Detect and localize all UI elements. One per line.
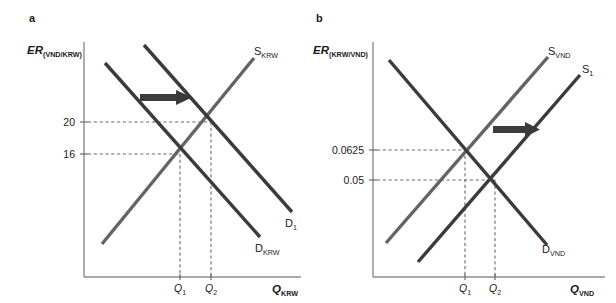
panel-b: b ER(KRW/VND) QVND 0.0625 <box>308 0 616 303</box>
panel-b-supply-shifted-curve <box>418 75 580 262</box>
panel-b-x-axis-label: QVND <box>570 283 594 298</box>
panel-b-supply-shift-arrow <box>493 122 540 137</box>
panel-b-demand-label-sub: VND <box>550 249 565 258</box>
panel-b-letter: b <box>316 12 323 24</box>
panel-a-demand-initial-label: DKRW <box>255 242 280 257</box>
panel-a-xtick-label-q1: Q1 <box>174 282 186 296</box>
panel-a-demand-initial-label-sub: KRW <box>263 248 280 257</box>
panel-b-x-axis-label-main: Q <box>570 283 579 295</box>
panel-b-y-axis-label-main: ER <box>313 44 330 56</box>
panel-a-y-axis-label-main: ER <box>27 44 44 56</box>
panel-b-xtick-label-q2-sub: 2 <box>497 289 501 296</box>
panel-a-supply-label: SKRW <box>254 45 278 60</box>
panel-a-x-axis-label-main: Q <box>272 283 281 295</box>
panel-b-x-axis-label-sub: VND <box>579 289 594 298</box>
panel-a-xtick-label-q1-sub: 1 <box>182 289 186 296</box>
panel-b-supply-shifted-label-main: S <box>582 63 589 75</box>
panel-b-xtick-label-q2: Q2 <box>489 282 501 296</box>
panel-a-xtick-label-q1-main: Q <box>174 282 182 294</box>
panel-a-x-axis-label-sub: KRW <box>281 289 298 298</box>
panel-a-supply-label-sub: KRW <box>261 51 278 60</box>
panel-a-xtick-label-q2-sub: 2 <box>213 289 217 296</box>
panel-b-demand-label-main: D <box>542 243 550 255</box>
panel-b-xtick-label-q1-sub: 1 <box>467 289 471 296</box>
panel-b-xtick-label-q1-main: Q <box>459 282 467 294</box>
panel-a-demand-shifted-curve <box>144 45 292 212</box>
panel-a: a ER(VND/KRW) QKRW 20 <box>0 0 308 303</box>
panel-b-xtick-label-q2-main: Q <box>489 282 497 294</box>
panel-a-x-axis-label: QKRW <box>272 283 298 298</box>
panel-a-ytick-label-20: 20 <box>63 116 75 128</box>
panel-b-supply-initial-label: SVND <box>548 45 571 60</box>
panel-b-supply-shifted-label: S1 <box>582 63 593 78</box>
panel-a-demand-shifted-label-sub: 1 <box>293 223 297 232</box>
panel-b-ytick-label-0-0625: 0.0625 <box>332 144 364 156</box>
panel-b-demand-label: DVND <box>542 243 565 258</box>
panel-b-y-axis-label: ER(KRW/VND) <box>313 44 369 59</box>
panel-b-supply-shifted-label-sub: 1 <box>589 69 593 78</box>
panel-a-xtick-label-q2-main: Q <box>205 282 213 294</box>
panel-b-xtick-label-q1: Q1 <box>459 282 471 296</box>
panel-b-supply-initial-label-sub: VND <box>555 51 570 60</box>
panel-a-demand-initial-label-main: D <box>255 242 263 254</box>
panel-a-y-axis-label: ER(VND/KRW) <box>27 44 83 59</box>
exchange-rate-supply-demand-figure: a ER(VND/KRW) QKRW 20 <box>0 0 616 303</box>
panel-a-chart: a ER(VND/KRW) QKRW 20 <box>0 0 308 303</box>
panel-b-y-axis-label-sub: (KRW/VND) <box>329 50 369 59</box>
panel-a-demand-shifted-label: D1 <box>285 217 297 232</box>
panel-a-demand-shifted-label-main: D <box>285 217 293 229</box>
panel-a-y-axis-label-sub: (VND/KRW) <box>43 50 83 59</box>
panel-b-supply-initial-label-main: S <box>548 45 555 57</box>
panel-a-letter: a <box>29 12 36 24</box>
panel-a-ytick-label-16: 16 <box>63 148 75 160</box>
panel-a-xtick-label-q2: Q2 <box>205 282 217 296</box>
panel-b-ytick-label-0-05: 0.05 <box>344 174 365 186</box>
panel-a-supply-label-main: S <box>254 45 261 57</box>
panel-b-chart: b ER(KRW/VND) QVND 0.0625 <box>308 0 616 303</box>
